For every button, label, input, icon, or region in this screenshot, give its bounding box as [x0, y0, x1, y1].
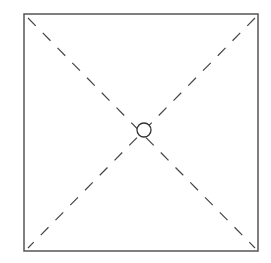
- center-circle: [137, 123, 151, 137]
- diagram-canvas: [0, 0, 271, 263]
